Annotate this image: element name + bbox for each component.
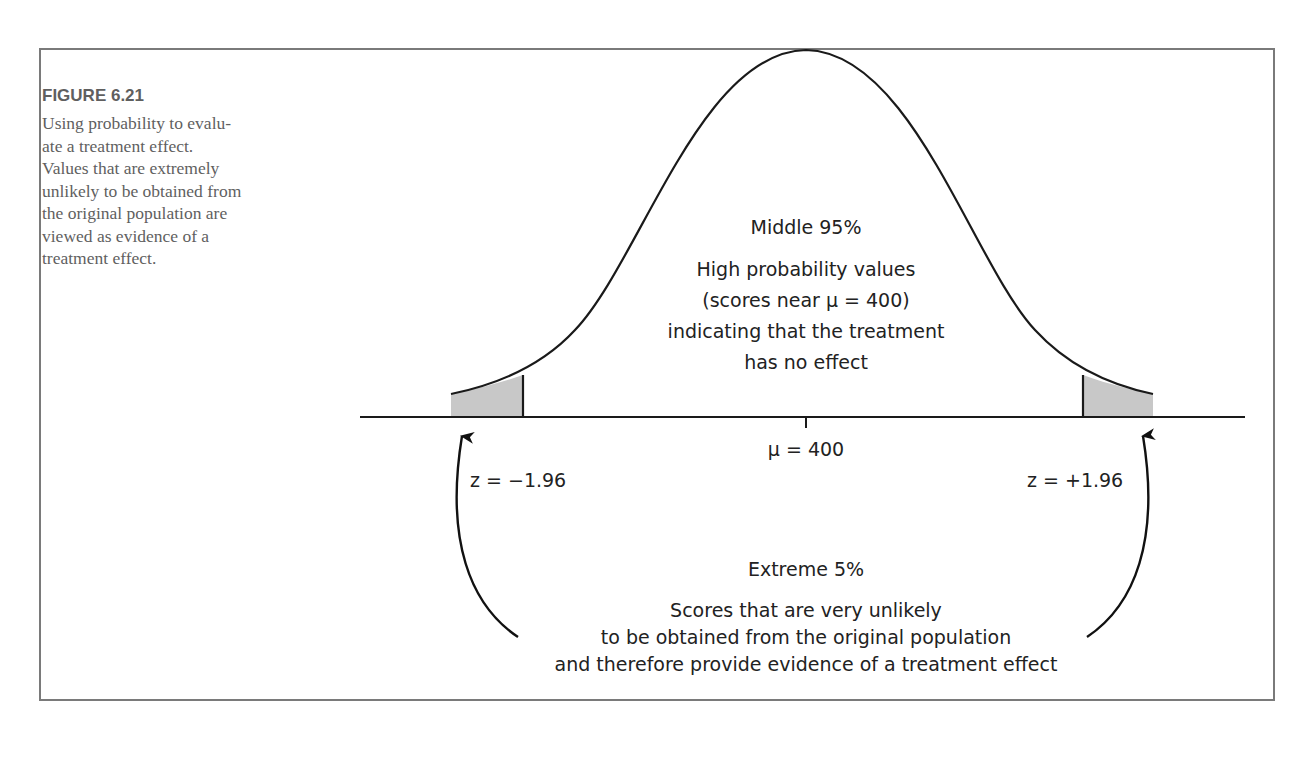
right-tail-region — [1083, 375, 1153, 417]
middle-region-line: (scores near μ = 400) — [702, 289, 909, 311]
left-cutoff-label: z = −1.96 — [470, 469, 566, 491]
normal-distribution-diagram: Middle 95% High probability values (scor… — [0, 0, 1305, 757]
left-arrow — [457, 436, 518, 637]
right-arrow — [1087, 436, 1148, 637]
mean-label: μ = 400 — [768, 438, 844, 460]
left-tail-region — [451, 375, 523, 417]
tail-region-heading: Extreme 5% — [748, 558, 864, 580]
tail-region-line: and therefore provide evidence of a trea… — [555, 653, 1058, 675]
tail-region-line: to be obtained from the original populat… — [601, 626, 1011, 648]
middle-region-line: High probability values — [697, 258, 916, 280]
middle-region-line: indicating that the treatment — [668, 320, 945, 342]
middle-region-heading: Middle 95% — [750, 216, 861, 238]
middle-region-line: has no effect — [744, 351, 868, 373]
tail-region-line: Scores that are very unlikely — [670, 599, 942, 621]
right-cutoff-label: z = +1.96 — [1027, 469, 1123, 491]
